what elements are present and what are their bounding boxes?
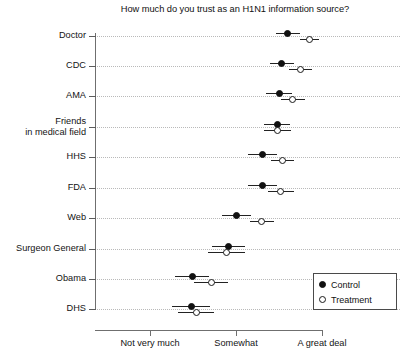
data-point-treatment (208, 279, 215, 286)
data-point-control (276, 90, 283, 97)
data-point-treatment (277, 188, 284, 195)
gridline (95, 188, 400, 189)
data-point-treatment (297, 66, 304, 73)
gridline (95, 157, 400, 158)
data-point-treatment (306, 36, 313, 43)
legend-item-control: Control (319, 277, 396, 292)
y-axis-label-dhs: DHS (67, 303, 86, 314)
y-axis-tick (89, 309, 96, 310)
y-axis-tick (89, 188, 96, 189)
legend-label-control: Control (331, 280, 360, 290)
y-axis-tick (89, 279, 96, 280)
y-axis-label-web: Web (67, 212, 86, 223)
data-point-control (259, 151, 266, 158)
gridline (95, 36, 400, 37)
y-axis-label-hhs: HHS (67, 151, 86, 162)
x-axis-label-somewhat: Somewhat (214, 338, 257, 348)
gridline (95, 127, 400, 128)
x-axis-tick (236, 330, 237, 336)
y-axis-tick (89, 127, 96, 128)
legend-label-treatment: Treatment (331, 295, 372, 305)
y-axis-line (95, 33, 96, 309)
chart-legend: Control Treatment (313, 273, 397, 310)
data-point-control (284, 30, 291, 37)
x-axis-tick (150, 330, 151, 336)
y-axis-label-friends-in-medical-field: Friends in medical field (25, 116, 86, 137)
x-axis-label-a-great-deal: A great deal (297, 338, 346, 348)
y-axis-tick (89, 218, 96, 219)
data-point-control (188, 303, 195, 310)
gridline (95, 96, 400, 97)
x-axis-line (95, 330, 323, 331)
y-axis-tick (89, 66, 96, 67)
legend-item-treatment: Treatment (319, 292, 396, 307)
data-point-treatment (289, 96, 296, 103)
gridline (95, 66, 400, 67)
y-axis-tick (89, 96, 96, 97)
filled-circle-icon (319, 281, 326, 288)
x-axis-label-not-very-much: Not very much (120, 338, 179, 348)
data-point-treatment (279, 157, 286, 164)
y-axis-label-surgeon-general: Surgeon General (16, 243, 86, 254)
data-point-control (233, 212, 240, 219)
y-axis-tick (89, 157, 96, 158)
y-axis-label-doctor: Doctor (59, 30, 86, 41)
data-point-control (189, 273, 196, 280)
data-point-control (278, 60, 285, 67)
y-axis-label-cdc: CDC (66, 60, 86, 71)
y-axis-tick (89, 249, 96, 250)
gridline (95, 249, 400, 250)
data-point-treatment (274, 127, 281, 134)
data-point-treatment (258, 218, 265, 225)
gridline (95, 218, 400, 219)
y-axis-label-ama: AMA (66, 90, 86, 101)
y-axis-label-obama: Obama (56, 273, 86, 284)
data-point-treatment (193, 309, 200, 316)
x-axis-tick (322, 330, 323, 336)
data-point-treatment (223, 249, 230, 256)
h1n1-trust-dot-plot: How much do you trust as an H1N1 informa… (0, 0, 404, 359)
y-axis-label-fda: FDA (68, 182, 86, 193)
open-circle-icon (319, 296, 326, 303)
y-axis-tick (89, 36, 96, 37)
data-point-control (259, 182, 266, 189)
